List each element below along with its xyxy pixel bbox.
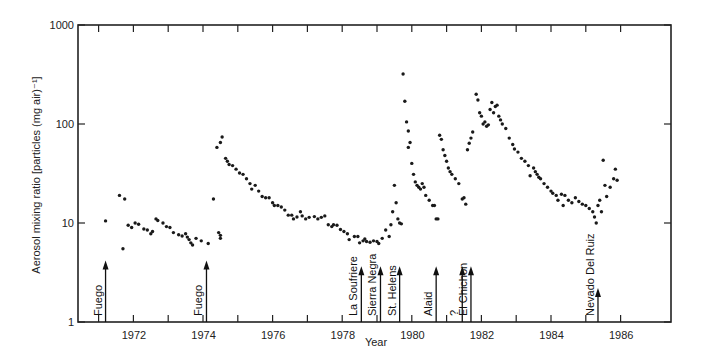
eruption-label: Fuego [192,285,204,316]
data-point [602,159,605,162]
data-point [408,141,411,144]
y-axis-title: Aerosol mixing ratio [particles (mg air)… [30,76,42,273]
data-point [480,114,483,117]
data-point [511,143,514,146]
data-point [422,185,425,188]
data-point [387,235,390,238]
data-point [172,231,175,234]
data-point [412,173,415,176]
data-point [393,184,396,187]
data-point [323,214,326,217]
data-point [394,201,397,204]
data-point [487,123,490,126]
data-point [419,187,422,190]
data-point [407,146,410,149]
data-point [612,177,615,180]
data-point [407,129,410,132]
data-point [474,92,477,95]
data-point [546,185,549,188]
y-tick-label: 10 [62,217,74,229]
data-point [245,177,248,180]
data-point [570,201,573,204]
x-tick-label: 1980 [400,329,424,341]
eruption-label: La Soufriere [347,256,359,316]
eruption-label: Nevado Del Ruiz [584,233,596,316]
data-point [295,215,298,218]
data-point [300,214,303,217]
data-point [290,213,293,216]
data-point [421,182,424,185]
data-point [436,217,439,220]
data-point [161,221,164,224]
data-point [227,163,230,166]
data-point [212,197,215,200]
data-point [130,226,133,229]
data-point [542,182,545,185]
data-point [504,127,507,130]
data-point [273,204,276,207]
data-point [424,194,427,197]
data-point [443,154,446,157]
data-point [368,240,371,243]
data-point [365,240,368,243]
arrow-head-icon [103,260,109,269]
data-point [495,103,498,106]
data-point [151,230,154,233]
data-point [595,221,598,224]
data-point [563,194,566,197]
data-point [560,193,563,196]
data-point [469,136,472,139]
data-point [591,210,594,213]
data-point [146,228,149,231]
data-point [501,122,504,125]
data-point [396,217,399,220]
data-point [539,177,542,180]
data-point [600,210,603,213]
data-point [605,195,608,198]
data-point [299,210,302,213]
data-point [133,221,136,224]
data-point [598,198,601,201]
data-point [260,195,263,198]
data-point [516,150,519,153]
data-point [264,196,267,199]
data-point [520,157,523,160]
data-point [476,98,479,101]
data-point [219,237,222,240]
x-tick-label: 1976 [261,329,285,341]
data-point [561,204,564,207]
data-point [497,114,500,117]
data-point [391,210,394,213]
data-point [532,166,535,169]
data-point [381,237,384,240]
data-point [283,208,286,211]
eruption-label: Fuego [92,285,104,316]
data-point [156,219,159,222]
eruption-label: Sierra Negra [366,253,378,316]
data-point [231,164,234,167]
data-point [280,205,283,208]
data-point [468,141,471,144]
data-point [400,222,403,225]
y-tick-label: 1000 [50,19,74,31]
data-point [292,217,295,220]
data-point [608,185,611,188]
data-point [126,224,129,227]
aerosol-chart: 1101001000197219741976197819801982198419… [0,0,704,355]
data-point [347,238,350,241]
eruption-label: St. Helens [386,265,398,316]
data-point [584,204,587,207]
data-point [353,235,356,238]
data-point [346,232,349,235]
data-point [401,72,404,75]
data-point [241,173,244,176]
data-point [335,224,338,227]
data-point [488,108,491,111]
data-point [168,226,171,229]
eruption-label: El Chichon [457,263,469,316]
data-point [499,118,502,121]
data-point [596,204,599,207]
data-point [224,157,227,160]
data-point [483,120,486,123]
data-point [191,243,194,246]
